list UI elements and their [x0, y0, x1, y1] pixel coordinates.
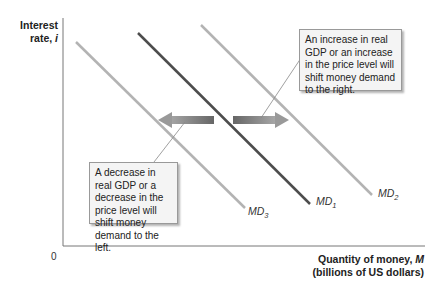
callout-decrease: A decrease in real GDP or a decrease in …: [89, 162, 178, 224]
callout-right-leader: [261, 58, 301, 118]
y-axis-label: Interest rate, i: [20, 19, 58, 45]
money-symbol: M: [415, 253, 424, 265]
curve-label-md3: MD3: [248, 205, 269, 220]
shift-left-arrow: [158, 112, 214, 128]
x-axis-label: Quantity of money, M (billions of US dol…: [313, 253, 424, 279]
callout-left-leader: [154, 122, 185, 162]
shift-right-arrow: [233, 112, 289, 128]
interest-rate-symbol: i: [55, 32, 58, 44]
curve-label-md2: MD2: [378, 187, 399, 202]
curve-label-md1: MD1: [316, 195, 337, 210]
callout-increase: An increase in real GDP or an increase i…: [299, 29, 402, 91]
x-axis-label-line1: Quantity of money, M: [313, 253, 424, 266]
x-axis-label-line2: (billions of US dollars): [313, 266, 424, 279]
y-axis-label-line1: Interest: [20, 19, 58, 32]
y-axis-label-line2: rate, i: [20, 32, 58, 45]
origin-label: 0: [51, 251, 57, 262]
